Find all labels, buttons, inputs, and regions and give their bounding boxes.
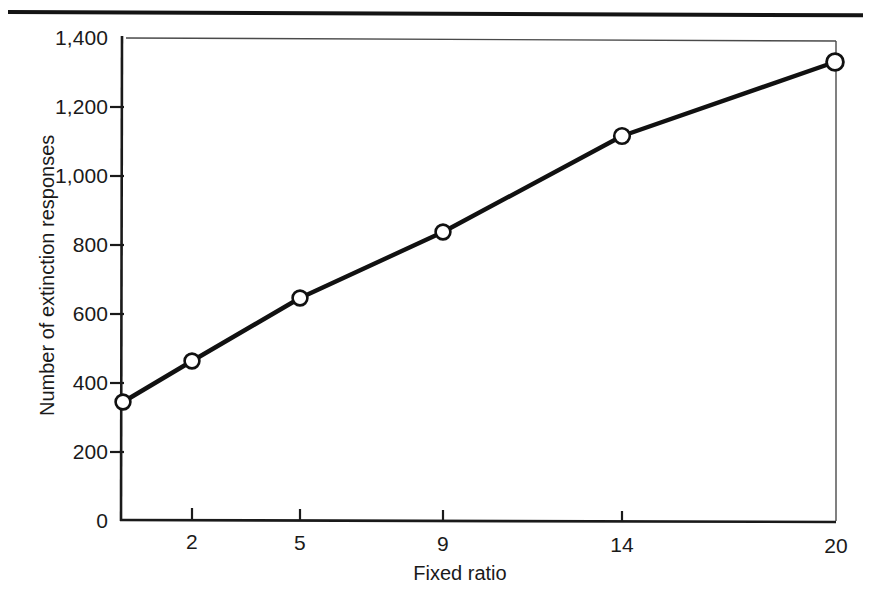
y-axis-spine	[121, 36, 122, 521]
plot-frame	[120, 36, 836, 522]
x-axis-title: Fixed ratio	[0, 562, 870, 585]
data-point-fr14	[614, 128, 630, 144]
figure-container: 1,400 1,200 1,000 800 600 400 200 0 2 5 …	[0, 0, 870, 597]
data-point-fr1	[116, 395, 131, 410]
data-markers	[116, 54, 844, 410]
y-tick-label-1200: 1,200	[40, 95, 108, 119]
x-tick-label-14: 14	[610, 533, 634, 557]
data-point-fr9	[436, 225, 451, 240]
data-point-fr5	[293, 291, 308, 306]
y-tick-label-200: 200	[40, 440, 108, 464]
x-tick-label-9: 9	[437, 532, 449, 556]
y-axis-title: Number of extinction responses	[36, 135, 59, 416]
plot-top-border	[126, 38, 836, 41]
y-tick-label-1400: 1,400	[40, 26, 108, 50]
line-chart-plot	[0, 0, 870, 597]
x-tick-label-5: 5	[294, 531, 306, 555]
data-point-fr2	[185, 354, 200, 369]
x-tick-label-20: 20	[824, 534, 848, 558]
data-line	[123, 62, 835, 402]
x-tick-label-2: 2	[186, 530, 198, 554]
x-axis-spine	[120, 520, 836, 522]
y-tick-label-0: 0	[40, 509, 108, 533]
data-point-fr20	[827, 54, 844, 71]
